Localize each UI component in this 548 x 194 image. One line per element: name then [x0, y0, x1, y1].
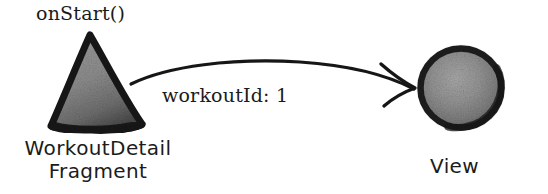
diagram-canvas: onStart() workoutId: 1 WorkoutDetail Fra… [0, 0, 548, 194]
annotation-onstart: onStart() [36, 4, 125, 23]
node-view-shape [418, 46, 504, 130]
edge-arrowhead [381, 64, 415, 106]
node-caption-view: View [430, 156, 479, 176]
node-fragment-shape [50, 34, 143, 131]
node-caption-fragment-line2: Fragment [0, 161, 196, 181]
edge-label-workoutid: workoutId: 1 [162, 86, 288, 105]
node-caption-fragment: WorkoutDetail Fragment [0, 138, 196, 181]
node-caption-fragment-line1: WorkoutDetail [0, 138, 196, 158]
